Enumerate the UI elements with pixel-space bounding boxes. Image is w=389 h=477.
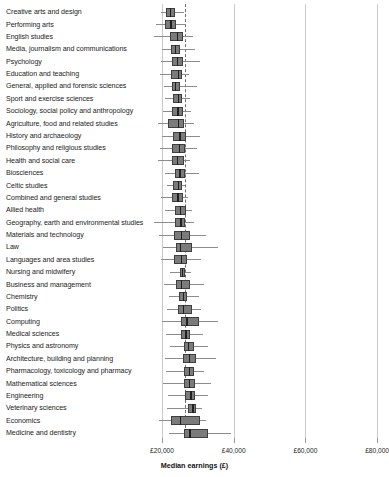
category-label: Psychology (6, 56, 42, 68)
axis-tick-label: £40,000 (222, 447, 246, 454)
whisker (164, 86, 197, 87)
median-line (175, 45, 176, 54)
category-label: Agriculture, food and related studies (6, 118, 118, 130)
axis-tick (377, 438, 378, 443)
box (176, 243, 192, 252)
category-label: Allied health (6, 204, 44, 216)
box-plot-row (0, 390, 389, 402)
box-plot-row (0, 316, 389, 328)
category-label: Nursing and midwifery (6, 266, 75, 278)
category-label: Philosophy and religious studies (6, 142, 106, 154)
box (176, 280, 190, 289)
median-line (178, 94, 179, 103)
category-label: Combined and general studies (6, 192, 101, 204)
box-plot-row (0, 19, 389, 31)
category-label: Biosciences (6, 167, 43, 179)
category-label: Computing (6, 316, 40, 328)
category-label: Creative arts and design (6, 6, 82, 18)
box-plot-row (0, 180, 389, 192)
median-line (188, 342, 189, 351)
axis-tick-label: £20,000 (150, 447, 174, 454)
median-line (180, 416, 181, 425)
median-line (179, 144, 180, 153)
box (181, 317, 199, 326)
box-plot-row (0, 303, 389, 315)
median-line (189, 379, 190, 388)
median-line (177, 193, 178, 202)
axis-tick-label: £60,000 (293, 447, 317, 454)
category-label: Pharmacology, toxicology and pharmacy (6, 365, 131, 377)
box-plot-row (0, 31, 389, 43)
median-line (178, 181, 179, 190)
median-line (190, 391, 191, 400)
category-label: Engineering (6, 390, 43, 402)
median-line (181, 255, 182, 264)
category-label: Sociology, social policy and anthropolog… (6, 105, 133, 117)
median-line (181, 231, 182, 240)
median-line (178, 70, 179, 79)
category-label: Sport and exercise sciences (6, 93, 93, 105)
category-label: Physics and astronomy (6, 340, 78, 352)
category-label: Media, journalism and communications (6, 43, 127, 55)
whisker (154, 222, 194, 223)
category-label: Architecture, building and planning (6, 353, 113, 365)
category-label: Materials and technology (6, 229, 84, 241)
box (184, 429, 208, 438)
box (178, 305, 192, 314)
category-label: Geography, earth and environmental studi… (6, 217, 143, 229)
category-label: General, applied and forensic sciences (6, 80, 126, 92)
box-plot-row (0, 291, 389, 303)
median-line (175, 82, 176, 91)
category-label: Health and social care (6, 155, 75, 167)
median-line (183, 305, 184, 314)
median-line (177, 156, 178, 165)
median-line (192, 404, 193, 413)
median-line (179, 169, 180, 178)
axis-tick (305, 438, 306, 443)
median-line (180, 243, 181, 252)
axis-tick (234, 438, 235, 443)
median-line (177, 107, 178, 116)
median-line (189, 367, 190, 376)
box-plot-row (0, 204, 389, 216)
median-line (177, 32, 178, 41)
box-plot-row (0, 415, 389, 427)
category-label: Performing arts (6, 19, 54, 31)
box-plot-chart: Creative arts and designPerforming artsE… (0, 0, 389, 477)
category-label: Medicine and dentistry (6, 427, 76, 439)
box-plot-row (0, 241, 389, 253)
category-label: Celtic studies (6, 180, 48, 192)
whisker (167, 408, 202, 409)
category-label: English studies (6, 31, 53, 43)
category-label: Politics (6, 303, 28, 315)
median-line (177, 57, 178, 66)
median-line (170, 8, 171, 17)
category-label: History and archaeology (6, 130, 81, 142)
axis-tick (162, 438, 163, 443)
category-label: Law (6, 241, 19, 253)
median-line (186, 317, 187, 326)
median-line (170, 20, 171, 29)
median-line (189, 354, 190, 363)
median-line (178, 119, 179, 128)
category-label: Veterinary sciences (6, 402, 67, 414)
category-label: Education and teaching (6, 68, 79, 80)
category-label: Chemistry (6, 291, 37, 303)
axis-tick-label: £80,000 (365, 447, 389, 454)
median-line (180, 218, 181, 227)
box (168, 119, 184, 128)
category-label: Business and management (6, 279, 91, 291)
median-line (180, 206, 181, 215)
category-label: Mathematical sciences (6, 378, 77, 390)
x-axis-title: Median earnings (£) (0, 461, 389, 470)
box-plot-row (0, 167, 389, 179)
median-line (182, 268, 183, 277)
box (171, 416, 200, 425)
box-plot-row (0, 56, 389, 68)
category-label: Economics (6, 415, 40, 427)
category-label: Medical sciences (6, 328, 59, 340)
median-line (183, 292, 184, 301)
median-line (185, 330, 186, 339)
category-label: Languages and area studies (6, 254, 94, 266)
box (171, 70, 182, 79)
